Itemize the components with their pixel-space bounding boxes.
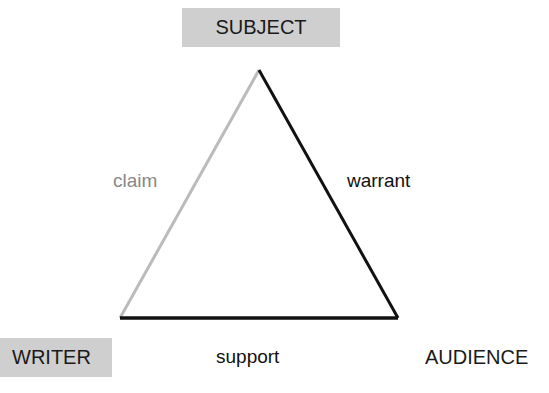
warrant-edge-label: warrant	[347, 170, 410, 192]
subject-label-text: SUBJECT	[215, 16, 306, 39]
subject-vertex-label: SUBJECT	[182, 8, 340, 47]
claim-edge	[120, 70, 259, 318]
support-edge-label: support	[216, 346, 279, 368]
writer-label-text: WRITER	[12, 346, 91, 369]
audience-vertex-label: AUDIENCE	[425, 346, 528, 369]
claim-edge-label: claim	[113, 170, 157, 192]
warrant-edge	[259, 70, 398, 318]
writer-vertex-label: WRITER	[0, 338, 112, 377]
triangle	[0, 0, 549, 393]
